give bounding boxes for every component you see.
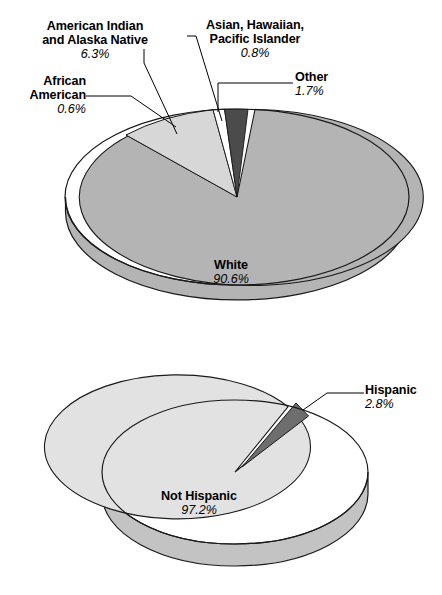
label-asian-hawaiian-pacific: Asian, Hawaiian, Pacific Islander 0.8% [190,18,320,60]
figure-canvas: American Indian and Alaska Native 6.3% A… [0,0,442,595]
label-hispanic: Hispanic 2.8% [365,383,442,411]
leader-line-other [218,83,293,112]
label-not-hispanic: Not Hispanic 97.2% [139,489,259,517]
label-african-american: African American 0.6% [0,74,86,116]
ethnicity-pie-leader-lines [303,393,364,410]
label-american-indian: American Indian and Alaska Native 6.3% [13,19,177,61]
ethnicity-pie-slices [44,375,368,544]
label-other: Other 1.7% [295,70,385,98]
leader-line-hispanic [303,393,364,410]
label-white: White 90.6% [181,258,281,286]
